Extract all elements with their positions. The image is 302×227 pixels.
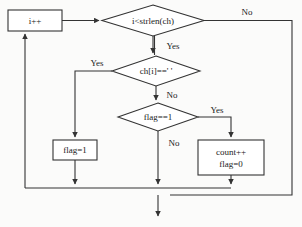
edge-label-flag-yes: Yes <box>210 105 223 115</box>
node-loop-condition-shape <box>102 5 204 36</box>
flowchart-canvas: i++ i<strlen(ch) ch[i]==' ' flag==1 flag… <box>0 0 302 227</box>
edge-label-space-no: No <box>167 90 178 100</box>
edge-label-flag-no: No <box>169 138 180 148</box>
edge-label-space-yes: Yes <box>90 58 103 68</box>
node-set-flag-shape <box>53 140 97 160</box>
node-flag-check-shape <box>118 103 198 131</box>
edge-label-loop-no: No <box>242 7 253 17</box>
node-increment-shape <box>8 10 62 31</box>
flowchart-graphics <box>0 0 302 227</box>
edge-label-loop-yes: Yes <box>166 41 179 51</box>
node-count-up-shape <box>198 140 264 175</box>
edge-space-yes <box>75 71 112 137</box>
edge-flag-yes <box>198 117 231 137</box>
node-space-check-shape <box>112 56 200 86</box>
